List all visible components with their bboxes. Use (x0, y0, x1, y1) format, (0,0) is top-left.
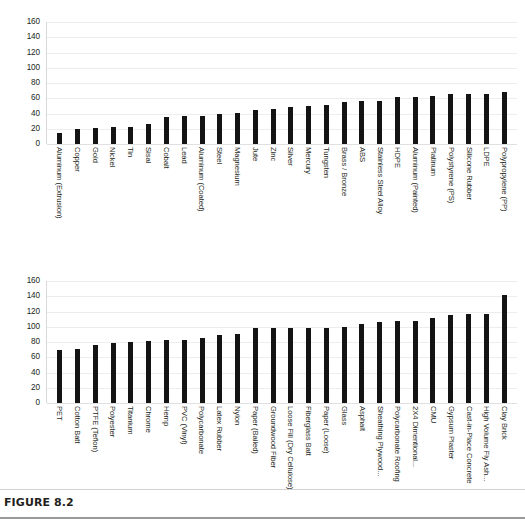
bar-slot (87, 22, 105, 144)
bar-slot (406, 22, 424, 144)
category-slot: Polypropylene (PP) (495, 144, 513, 256)
y-tick-label: 0 (36, 140, 40, 148)
bar (164, 117, 169, 144)
y-tick-label: 160 (27, 277, 40, 285)
bar (200, 338, 205, 403)
bar (359, 101, 364, 144)
category-label: Copper (73, 147, 81, 172)
category-label: Brass / Bronze (340, 147, 348, 196)
bar-slot (371, 281, 389, 403)
y-tick-label: 20 (31, 125, 40, 133)
category-slot: Titanium (121, 403, 139, 515)
bar-slot (69, 281, 87, 403)
bar (57, 350, 62, 403)
bar-slot (477, 281, 495, 403)
category-slot: Tungsten (317, 144, 335, 256)
bar (324, 105, 329, 144)
category-label: Jute (251, 147, 259, 161)
x-axis-labels-bottom: PETCotton BattPTFE (Teflon)PolyesterTita… (46, 403, 517, 515)
category-slot: Aluminum (Extrusion) (50, 144, 68, 256)
bar (448, 315, 453, 403)
bar (271, 109, 276, 144)
bar (235, 334, 240, 403)
category-label: Polyester (108, 406, 116, 437)
category-slot: Chrome (139, 403, 157, 515)
bar-slot (264, 22, 282, 144)
bar (430, 96, 435, 144)
category-slot: PTFE (Teflon) (86, 403, 104, 515)
bar-slot (122, 281, 140, 403)
category-label: Silver (286, 147, 294, 166)
bar (146, 341, 151, 403)
bar-series-bottom (47, 281, 517, 403)
category-slot: Fiberglass Batt (299, 403, 317, 515)
category-slot: Sheathing Plywood... (371, 403, 389, 515)
bar-slot (442, 22, 460, 144)
bar-slot (158, 22, 176, 144)
bar-slot (424, 281, 442, 403)
category-slot: High Volume Fly Ash... (478, 403, 496, 515)
bar-slot (246, 281, 264, 403)
category-label: Chrome (144, 406, 152, 433)
category-label: LDPE (482, 147, 490, 167)
bar-slot (51, 22, 69, 144)
bar-slot (175, 281, 193, 403)
category-label: Fiberglass Batt (304, 406, 312, 456)
figure-caption: FIGURE 8.2 (4, 496, 74, 509)
category-slot: Magnesium (228, 144, 246, 256)
bar (235, 113, 240, 144)
category-slot: Groundwood Fiber (264, 403, 282, 515)
category-slot: Polyester (103, 403, 121, 515)
bar-slot (229, 281, 247, 403)
bar (342, 327, 347, 403)
category-label: Asphalt (358, 406, 366, 431)
category-slot: 2X4 Dimentional... (406, 403, 424, 515)
category-label: Hemp (162, 406, 170, 426)
category-label: PTFE (Teflon) (91, 406, 99, 452)
y-axis-top: 160140120100806040200 (3, 22, 43, 144)
category-label: Magnesium (233, 147, 241, 186)
category-label: PET (55, 406, 63, 421)
bar-slot (69, 22, 87, 144)
y-tick-label: 160 (27, 18, 40, 26)
category-slot: HDPE (388, 144, 406, 256)
bar (306, 106, 311, 144)
category-label: Sheathing Plywood... (376, 406, 384, 476)
bar-slot (246, 22, 264, 144)
bar (395, 97, 400, 144)
bar-slot (424, 22, 442, 144)
bar-slot (317, 22, 335, 144)
category-slot: Latex Rubber (210, 403, 228, 515)
category-label: Aluminum (Painted) (411, 147, 419, 213)
bar (413, 97, 418, 144)
bar (253, 328, 258, 403)
category-label: Paper (Loose) (322, 406, 330, 453)
bar-slot (353, 281, 371, 403)
category-slot: Gold (86, 144, 104, 256)
bar-slot (389, 22, 407, 144)
category-slot: Zinc (264, 144, 282, 256)
bar (324, 328, 329, 403)
category-label: Mercury (304, 147, 312, 174)
bar (128, 127, 133, 144)
category-slot: Tin (121, 144, 139, 256)
category-label: Stainless Steel Alloy (376, 147, 384, 214)
category-label: Latex Rubber (215, 406, 223, 451)
category-label: Titanium (126, 406, 134, 434)
category-slot: Copper (68, 144, 86, 256)
y-tick-label: 40 (31, 369, 40, 377)
category-label: Gold (91, 147, 99, 163)
category-slot: Platinum (424, 144, 442, 256)
category-label: Aluminum (Extrusion) (55, 147, 63, 219)
category-slot: Silver (282, 144, 300, 256)
y-tick-label: 120 (27, 308, 40, 316)
category-label: Gypsum Plaster (447, 406, 455, 459)
bar-slot (140, 22, 158, 144)
category-slot: Aluminum (Painted) (406, 144, 424, 256)
bar-slot (300, 281, 318, 403)
bar-slot (495, 281, 513, 403)
category-label: Sisal (144, 147, 152, 163)
bar-slot (442, 281, 460, 403)
x-axis-labels-top: Aluminum (Extrusion)CopperGoldNickelTinS… (46, 144, 517, 256)
bar (288, 328, 293, 403)
